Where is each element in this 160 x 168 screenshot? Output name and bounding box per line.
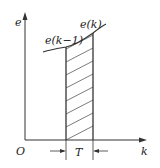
origin-label: O — [16, 145, 25, 158]
interval-label: T — [75, 146, 84, 159]
x-axis-label: k — [141, 145, 148, 158]
curve-label-right: e(k) — [80, 18, 102, 31]
y-axis-label: e — [15, 16, 22, 29]
x-axis — [25, 138, 147, 143]
hatch-pattern — [66, 35, 93, 140]
y-axis — [23, 12, 28, 140]
trapezoid-integration-diagram: e k O e(k−1) e(k) T — [0, 0, 160, 168]
curve-label-left: e(k−1) — [45, 34, 83, 47]
